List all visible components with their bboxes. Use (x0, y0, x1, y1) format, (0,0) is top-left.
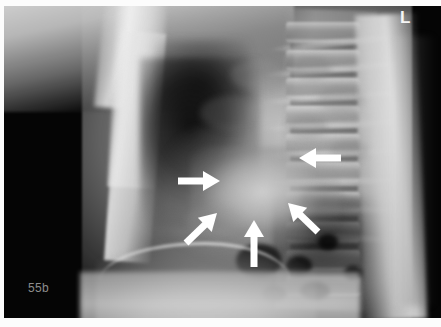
figure-number-label: 55b (28, 281, 49, 295)
arrow-retrocardiac-icon (244, 220, 264, 267)
arrow-infrahilar-anterior-icon (186, 213, 217, 243)
arrow-shaft (299, 213, 318, 232)
arrow-head (299, 148, 316, 168)
radiograph-film: L (4, 6, 441, 318)
arrow-head (203, 171, 220, 191)
arrow-hilar-anterior-icon (178, 171, 220, 191)
laterality-marker-left: L (400, 8, 410, 28)
arrow-infrahilar-posterior-icon (288, 203, 318, 232)
radiograph-figure: L 55b (0, 0, 441, 327)
arrow-posterior-upper-icon (299, 148, 341, 168)
annotation-arrows (4, 6, 441, 318)
arrow-head (244, 220, 264, 237)
arrow-shaft (186, 223, 206, 243)
